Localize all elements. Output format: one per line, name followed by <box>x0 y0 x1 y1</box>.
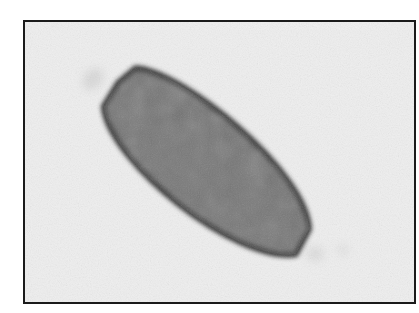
film-grain <box>25 22 414 302</box>
micrograph-frame <box>23 20 416 304</box>
micrograph-image <box>25 22 414 302</box>
micrograph-canvas <box>0 0 419 313</box>
